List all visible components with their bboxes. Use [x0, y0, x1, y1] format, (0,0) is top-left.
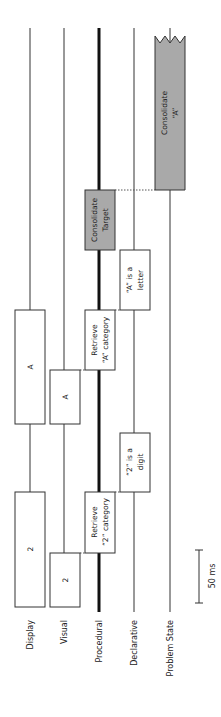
scale-bar-label: 50 ms: [208, 564, 217, 589]
box-retrieve-A-line1: Retrieve: [90, 324, 99, 356]
box-visual-A: A: [50, 370, 80, 424]
box-consolidate-target: Consolidate Target: [85, 190, 115, 250]
lane-labels: Display Visual Procedural Declarative Pr…: [26, 620, 175, 677]
box-consolidate-A-line1: Consolidate: [160, 91, 169, 136]
lane-label-procedural: Procedural: [95, 620, 104, 663]
scale-bar: 50 ms: [195, 550, 217, 603]
box-consolidate-A-line2: “A”: [171, 107, 180, 118]
box-retrieve-2-line1: Retrieve: [90, 506, 99, 538]
box-declarative-2-line1: “2” is a: [125, 448, 134, 476]
box-retrieve-A: Retrieve “A” category: [85, 310, 115, 370]
box-retrieve-2-line2: “2” category: [101, 497, 110, 546]
box-visual-2-label: 2: [61, 577, 70, 582]
box-display-2-label: 2: [26, 546, 35, 551]
box-consolidate-A: Consolidate “A”: [155, 36, 185, 190]
lane-label-display: Display: [26, 620, 35, 650]
lane-label-declarative: Declarative: [130, 620, 139, 666]
box-consolidate-target-line2: Target: [101, 208, 110, 232]
box-retrieve-A-line2: “A” category: [101, 316, 110, 363]
box-declarative-A-line2: letter: [136, 269, 145, 290]
box-retrieve-2: Retrieve “2” category: [85, 492, 115, 553]
box-declarative-2: “2” is a digit: [120, 433, 150, 492]
box-consolidate-target-line1: Consolidate: [90, 198, 99, 243]
lane-label-visual: Visual: [60, 620, 69, 644]
box-visual-A-label: A: [61, 394, 70, 400]
box-display-A-label: A: [26, 364, 35, 370]
lane-label-problem-state: Problem State: [166, 620, 175, 677]
box-display-A: A: [15, 310, 45, 424]
box-declarative-A-line1: “A” is a: [125, 267, 134, 293]
box-display-2: 2: [15, 492, 45, 607]
box-declarative-A: “A” is a letter: [120, 250, 150, 310]
act-r-timeline-diagram: 2 2 Retrieve “2” category “2” is a digit…: [0, 0, 221, 717]
box-visual-2: 2: [50, 553, 80, 607]
box-declarative-2-line2: digit: [136, 454, 145, 471]
